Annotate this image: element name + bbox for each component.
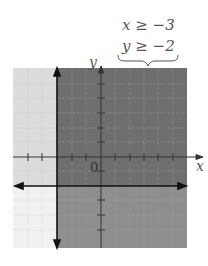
inequality-graph: x ≥ −3 y ≥ −2 y x 0 [0, 0, 208, 266]
region-lightest [13, 186, 57, 248]
region-dark-solution [57, 68, 187, 186]
region-medium [57, 186, 187, 248]
brace [118, 55, 178, 66]
inequality-1: x ≥ −3 [122, 16, 175, 34]
x-axis-label: x [196, 158, 204, 174]
inequality-2: y ≥ −2 [121, 37, 175, 55]
origin-label: 0 [90, 160, 98, 175]
region-light [13, 68, 57, 186]
y-axis-label: y [88, 54, 98, 70]
